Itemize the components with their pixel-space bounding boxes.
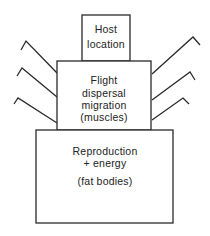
left-leg-2 (17, 68, 57, 97)
flight-label-line-3: migration (82, 99, 127, 111)
insect-body-diagram: Host location Flight dispersal migration… (0, 0, 210, 236)
right-leg-1 (152, 37, 200, 74)
right-leg-3 (152, 98, 189, 120)
flight-label-line-2: dispersal (82, 87, 126, 99)
reproduction-label-line-3: (fat bodies) (78, 175, 133, 187)
flight-label-line-4: (muscles) (80, 111, 127, 123)
reproduction-label-line-1: Reproduction (73, 145, 138, 157)
left-leg-1 (21, 41, 57, 73)
reproduction-label-line-2: + energy (84, 157, 127, 169)
host-label-line-1: Host (95, 23, 117, 35)
left-leg-3 (14, 98, 57, 123)
flight-label-line-1: Flight (91, 74, 118, 86)
right-leg-2 (152, 72, 195, 100)
host-label-line-2: location (87, 38, 125, 50)
